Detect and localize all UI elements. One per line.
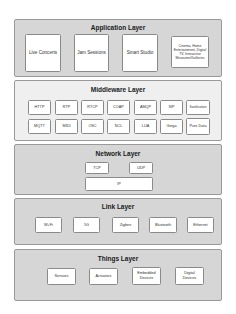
application-layer: Application Layer Live Concerts Jam Sess… xyxy=(14,19,222,77)
smart-studio-box: Smart Studio xyxy=(122,34,158,72)
ip-box: IP xyxy=(85,177,153,191)
jam-sessions-box: Jam Sessions xyxy=(74,34,109,72)
live-concerts-box: Live Concerts xyxy=(25,34,61,72)
tcp-box: TCP xyxy=(85,162,109,174)
midi-box: MIDI xyxy=(55,119,78,134)
ginga-box: Ginga xyxy=(160,119,183,134)
layer-title: Middleware Layer xyxy=(15,86,221,93)
lua-box: LUA xyxy=(134,119,157,134)
ncl-box: NCL xyxy=(107,119,130,134)
udp-box: UDP xyxy=(129,162,153,174)
pure-data-box: Pure Data xyxy=(186,118,210,135)
amqp-box: AMQP xyxy=(134,100,157,115)
bluetooth-box: Bluetooth xyxy=(149,217,177,233)
sonification-box: Sonification xyxy=(186,100,210,115)
zigbee-box: Zigbee xyxy=(112,217,139,233)
5g-box: 5G xyxy=(73,217,100,233)
layer-title: Application Layer xyxy=(15,24,221,31)
actuators-box: Actuators xyxy=(89,268,118,285)
osc-box: OSC xyxy=(81,119,104,134)
things-layer: Things Layer Sensors Actuators Embedded … xyxy=(14,249,222,301)
rtcp-box: RTCP xyxy=(81,100,104,115)
wifi-box: Wi-Fi xyxy=(35,217,62,233)
ethernet-box: Ethernet xyxy=(187,217,214,233)
embedded-devices-box: Embedded Devices xyxy=(132,267,161,285)
sensors-box: Sensors xyxy=(47,268,76,285)
layer-title: Network Layer xyxy=(15,150,221,157)
mqtt-box: MQTT xyxy=(28,119,51,134)
middleware-layer: Middleware Layer HTTP RTP RTCP COAP AMQP… xyxy=(14,80,222,141)
digital-devices-box: Digital Devices xyxy=(175,267,204,285)
layer-title: Things Layer xyxy=(15,255,221,262)
sip-box: SIP xyxy=(160,100,183,115)
layer-title: Link Layer xyxy=(15,203,221,210)
network-layer: Network Layer TCP UDP IP xyxy=(14,144,222,195)
rtp-box: RTP xyxy=(55,100,78,115)
http-box: HTTP xyxy=(28,100,51,115)
coap-box: COAP xyxy=(107,100,130,115)
link-layer: Link Layer Wi-Fi 5G Zigbee Bluetooth Eth… xyxy=(14,198,222,245)
cinema-entertainment-box: Cinema, Home Entertainment, Digital TV, … xyxy=(171,36,209,68)
